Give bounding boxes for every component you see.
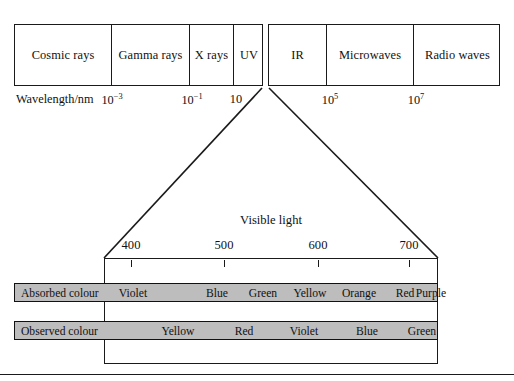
observed-colour-blue: Blue (356, 324, 378, 337)
visible-light-tick-label-700: 700 (400, 238, 419, 253)
absorbed-colour-yellow: Yellow (294, 286, 327, 299)
bottom-divider (0, 374, 514, 375)
visible-light-tick-label-400: 400 (122, 238, 141, 253)
em-band-gamma-rays: Gamma rays (111, 25, 189, 85)
em-spectrum-left-strip: Cosmic raysGamma raysX raysUV (14, 24, 263, 86)
em-band-radio-waves: Radio waves (413, 25, 501, 85)
absorbed-colour-bar: Absorbed colour VioletBlueGreenYellowOra… (14, 283, 438, 302)
em-band-cosmic-rays: Cosmic rays (15, 25, 111, 85)
visible-light-tick-label-500: 500 (215, 238, 234, 253)
observed-colour-red: Red (235, 324, 254, 337)
absorbed-colour-blue: Blue (206, 286, 228, 299)
em-band-microwaves: Microwaves (326, 25, 413, 85)
absorbed-colour-violet: Violet (119, 286, 147, 299)
visible-light-tick-label-600: 600 (309, 238, 328, 253)
em-band-ir: IR (269, 25, 326, 85)
wavelength-tick-4: 107 (408, 92, 424, 108)
absorbed-colour-green: Green (249, 286, 277, 299)
visible-light-tick-mark-500 (224, 260, 225, 267)
absorbed-colour-red: Red (396, 286, 415, 299)
wavelength-tick-0: 10−3 (101, 92, 122, 108)
wavelength-tick-1: 10−1 (181, 92, 202, 108)
observed-colour-violet: Violet (290, 324, 318, 337)
visible-light-tick-mark-700 (409, 260, 410, 267)
observed-colour-bar: Observed colour YellowRedVioletBlueGreen (14, 321, 438, 340)
absorbed-colour-orange: Orange (342, 286, 376, 299)
wavelength-tick-3: 105 (322, 92, 338, 108)
observed-colour-green: Green (408, 324, 436, 337)
visible-light-box (104, 258, 438, 364)
wavelength-tick-2: 10 (230, 92, 242, 107)
absorbed-colour-purple: Purple (416, 286, 446, 299)
em-spectrum-right-strip: IRMicrowavesRadio waves (268, 24, 500, 86)
observed-colour-yellow: Yellow (162, 324, 195, 337)
visible-light-title: Visible light (240, 213, 302, 228)
figure-canvas: Cosmic raysGamma raysX raysUV IRMicrowav… (0, 0, 514, 381)
visible-light-tick-mark-600 (318, 260, 319, 267)
observed-colour-label: Observed colour (21, 324, 98, 337)
visible-light-tick-mark-400 (131, 260, 132, 267)
absorbed-colour-label: Absorbed colour (21, 286, 99, 299)
em-band-x-rays: X rays (189, 25, 233, 85)
em-band-uv: UV (233, 25, 264, 85)
wavelength-axis-label: Wavelength/nm (16, 92, 94, 107)
